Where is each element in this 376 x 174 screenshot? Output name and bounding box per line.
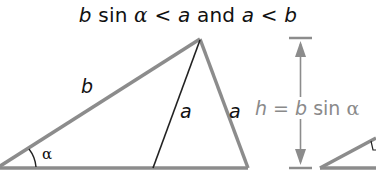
height-var-h: h	[255, 97, 267, 119]
height-formula: h = b sin α	[254, 97, 360, 119]
right-triangle-hypotenuse	[320, 138, 376, 168]
label-side-a-inner: a	[180, 100, 192, 122]
right-angle-mark	[371, 141, 376, 150]
height-var-b: b	[295, 97, 307, 119]
angle-arc	[29, 149, 36, 167]
triangle-diagram	[0, 0, 376, 174]
height-alpha: α	[346, 97, 359, 119]
side-a-outer	[200, 39, 248, 168]
arrow-down-icon	[295, 149, 306, 165]
label-side-b: b	[81, 75, 93, 97]
label-angle-alpha: α	[42, 145, 52, 163]
height-sin: sin	[307, 97, 346, 119]
side-a-inner	[153, 40, 200, 168]
height-equals: =	[267, 97, 295, 119]
arrow-up-icon	[295, 41, 306, 57]
label-side-a-outer: a	[229, 100, 241, 122]
